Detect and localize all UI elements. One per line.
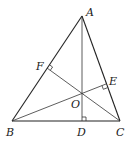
label-a: A [85,6,94,19]
right-angle-e-icon [102,86,107,90]
right-angle-f-icon [49,65,52,71]
segment-ac [82,16,120,121]
label-d: D [76,126,86,139]
altitude-be [12,84,106,121]
label-c: C [116,126,125,139]
geometry-diagram: A B C D E F O [0,0,130,147]
label-b: B [5,126,14,139]
label-o: O [71,98,80,111]
label-e: E [108,75,117,88]
label-f: F [35,60,44,73]
right-angle-d-icon [82,117,86,121]
